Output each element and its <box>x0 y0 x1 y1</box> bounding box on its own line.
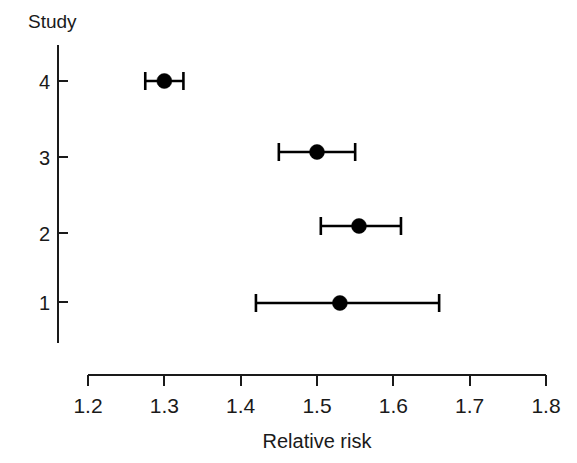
x-tick-label-1.2: 1.2 <box>73 394 102 417</box>
y-axis-title: Study <box>28 11 77 32</box>
study-row-1 <box>256 294 439 312</box>
data-series-group <box>145 72 439 312</box>
study-row-4 <box>145 72 183 90</box>
y-tick-label-4: 4 <box>39 71 50 93</box>
study-row-2 <box>321 217 401 235</box>
x-tick-label-1.7: 1.7 <box>455 394 484 417</box>
x-tick-label-1.3: 1.3 <box>150 394 179 417</box>
point-estimate-marker-3 <box>310 145 325 160</box>
y-tick-group: 4 3 2 1 <box>39 71 68 314</box>
point-estimate-marker-2 <box>351 219 366 234</box>
y-tick-label-3: 3 <box>39 147 50 169</box>
plot-canvas: Study 4 3 2 1 1.21.31.41.51.61.71.8 Rela… <box>0 0 577 463</box>
study-row-3 <box>279 143 355 161</box>
x-tick-group: 1.21.31.41.51.61.71.8 <box>73 375 560 417</box>
forest-plot-figure: Study 4 3 2 1 1.21.31.41.51.61.71.8 Rela… <box>0 0 577 463</box>
x-tick-label-1.4: 1.4 <box>226 394 256 417</box>
x-tick-label-1.5: 1.5 <box>302 394 331 417</box>
point-estimate-marker-4 <box>157 74 172 89</box>
y-tick-label-1: 1 <box>39 292 50 314</box>
x-axis-title: Relative risk <box>263 430 373 452</box>
point-estimate-marker-1 <box>332 296 347 311</box>
x-tick-label-1.6: 1.6 <box>379 394 408 417</box>
x-tick-label-1.8: 1.8 <box>531 394 560 417</box>
y-tick-label-2: 2 <box>39 223 50 245</box>
